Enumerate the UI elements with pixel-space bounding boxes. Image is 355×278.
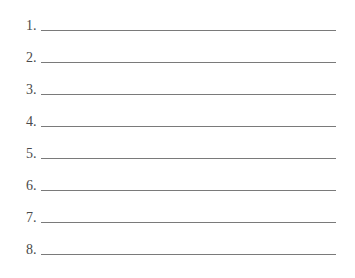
item-number: 5. bbox=[26, 147, 41, 162]
item-number: 1. bbox=[26, 19, 41, 34]
list-item: 3. bbox=[26, 78, 336, 98]
list-item: 6. bbox=[26, 174, 336, 194]
answer-blank-line[interactable] bbox=[41, 62, 336, 63]
answer-blank-line[interactable] bbox=[41, 94, 336, 95]
item-number: 3. bbox=[26, 83, 41, 98]
item-number: 4. bbox=[26, 115, 41, 130]
list-item: 7. bbox=[26, 206, 336, 226]
list-item: 5. bbox=[26, 142, 336, 162]
answer-blank-line[interactable] bbox=[41, 222, 336, 223]
answer-blank-line[interactable] bbox=[41, 190, 336, 191]
answer-blank-line[interactable] bbox=[41, 158, 336, 159]
list-item: 4. bbox=[26, 110, 336, 130]
answer-blank-line[interactable] bbox=[41, 30, 336, 31]
item-number: 6. bbox=[26, 179, 41, 194]
list-item: 2. bbox=[26, 46, 336, 66]
list-item: 1. bbox=[26, 14, 336, 34]
answer-blank-line[interactable] bbox=[41, 126, 336, 127]
item-number: 8. bbox=[26, 243, 41, 258]
answer-blank-line[interactable] bbox=[41, 254, 336, 255]
list-item: 8. bbox=[26, 238, 336, 258]
item-number: 7. bbox=[26, 211, 41, 226]
item-number: 2. bbox=[26, 51, 41, 66]
